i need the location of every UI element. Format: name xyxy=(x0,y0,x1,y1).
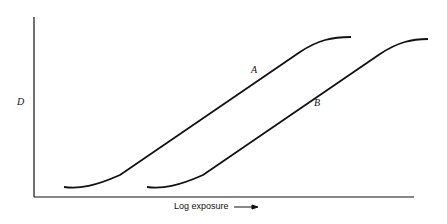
y-axis-label: D xyxy=(17,96,24,107)
curve-a xyxy=(64,37,351,188)
curve-b-label: B xyxy=(314,97,320,108)
chart xyxy=(0,0,447,224)
axes xyxy=(34,17,414,197)
curve-a-label: A xyxy=(251,64,257,75)
arrow-icon xyxy=(234,205,258,209)
x-axis-label: Log exposure xyxy=(174,201,229,211)
